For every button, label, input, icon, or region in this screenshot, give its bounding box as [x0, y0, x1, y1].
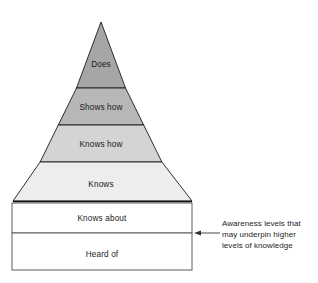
pyramid-tier-does-shape [77, 22, 126, 88]
figure-container: Does Shows how Knows how Knows Knows abo… [0, 0, 318, 283]
pyramid-tier-label-shows-how: Shows how [79, 103, 122, 112]
annotation-caption-line-3: levels of knowledge [222, 241, 293, 250]
pyramid-tier-label-does: Does [91, 60, 111, 69]
annotation-caption-line-2: may underpin higher [222, 230, 296, 239]
pyramid-tier-label-knows-how: Knows how [79, 140, 122, 149]
base-box-label-heard-of: Heard of [86, 250, 119, 259]
annotation-caption-line-1: Awareness levels that [222, 219, 301, 228]
annotation-arrow-head-icon [194, 230, 201, 235]
pyramid-diagram-svg: Does Shows how Knows how Knows Knows abo… [0, 0, 318, 283]
pyramid-tier-label-knows: Knows [88, 180, 113, 189]
base-box-label-knows-about: Knows about [78, 214, 128, 223]
